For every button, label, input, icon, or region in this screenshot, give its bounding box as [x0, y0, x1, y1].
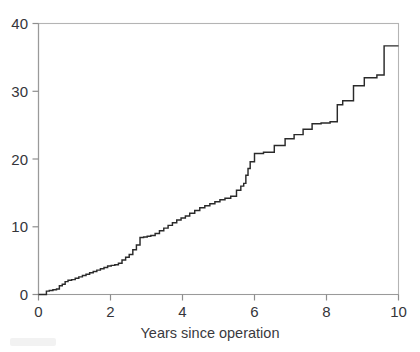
chart-background — [0, 0, 420, 352]
x-tick-label-0: 0 — [34, 303, 42, 320]
y-tick-label-20: 20 — [11, 151, 28, 168]
y-tick-label-10: 10 — [11, 218, 28, 235]
x-tick-label-8: 8 — [322, 303, 330, 320]
scan-artifact — [10, 338, 56, 346]
y-tick-label-30: 30 — [11, 83, 28, 100]
y-tick-label-0: 0 — [20, 286, 28, 303]
y-tick-label-40: 40 — [11, 15, 28, 32]
cumulative-incidence-chart: 40 30 20 10 0 0 2 4 6 8 10 Years since o… — [0, 0, 420, 352]
chart-svg: 40 30 20 10 0 0 2 4 6 8 10 Years since o… — [0, 0, 420, 352]
x-tick-label-10: 10 — [390, 303, 407, 320]
x-tick-label-6: 6 — [250, 303, 258, 320]
x-tick-label-2: 2 — [106, 303, 114, 320]
x-axis-title: Years since operation — [141, 325, 280, 341]
x-tick-label-4: 4 — [178, 303, 186, 320]
